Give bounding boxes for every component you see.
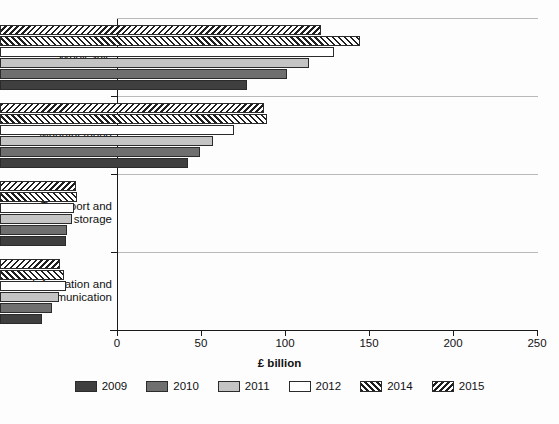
swatch-2010-icon [146,381,168,392]
bar-transport-2010 [0,225,67,235]
legend-item-2015[interactable]: 2015 [432,380,485,392]
bar-transport-2011 [0,214,72,224]
swatch-2009-icon [75,381,97,392]
legend-label: 2012 [316,380,342,392]
bar-wholesale-2009 [0,80,247,90]
bar-information-2015 [0,259,60,269]
swatch-2011-icon [218,381,240,392]
legend-label: 2014 [387,380,413,392]
x-axis-tick [117,330,118,336]
page-bleed-artifact [470,46,472,55]
bar-information-2011 [0,292,59,302]
bar-wholesale-2010 [0,69,287,79]
x-axis-tick-label: 250 [517,337,557,349]
x-axis-title: £ billion [0,357,559,369]
legend-label: 2009 [102,380,128,392]
bar-transport-2014 [0,192,77,202]
bar-manufacturing-2012 [0,125,234,135]
legend-label: 2010 [173,380,199,392]
bar-transport-2009 [0,236,66,246]
x-axis-line [110,330,538,331]
chart-legend: 200920102011201220142015 [0,380,559,392]
bar-wholesale-2014 [0,36,360,46]
x-axis-tick-label: 0 [97,337,137,349]
bar-manufacturing-2014 [0,114,267,124]
bar-wholesale-2012 [0,47,334,57]
bar-manufacturing-2011 [0,136,213,146]
bar-transport-2012 [0,203,74,213]
bar-group [0,18,420,96]
x-axis-tick [537,330,538,336]
bar-group [0,252,420,330]
x-axis-tick [201,330,202,336]
x-axis-tick-label: 200 [433,337,473,349]
x-axis-tick [285,330,286,336]
x-axis-tick [453,330,454,336]
bar-information-2014 [0,270,64,280]
swatch-2012-icon [289,381,311,392]
legend-item-2014[interactable]: 2014 [360,380,413,392]
bar-information-2012 [0,281,66,291]
bar-chart: WholesaleManufacturingTransport and stor… [0,0,559,424]
bar-group [0,96,420,174]
bar-group [0,174,420,252]
bar-wholesale-2015 [0,25,321,35]
x-axis-tick-label: 50 [181,337,221,349]
bar-transport-2015 [0,181,76,191]
swatch-2014-icon [360,381,382,392]
bar-wholesale-2011 [0,58,309,68]
bar-manufacturing-2010 [0,147,200,157]
legend-item-2010[interactable]: 2010 [146,380,199,392]
legend-item-2012[interactable]: 2012 [289,380,342,392]
x-axis-tick-label: 150 [349,337,389,349]
bar-manufacturing-2015 [0,103,264,113]
legend-item-2009[interactable]: 2009 [75,380,128,392]
swatch-2015-icon [432,381,454,392]
x-axis-tick-label: 100 [265,337,305,349]
legend-label: 2015 [459,380,485,392]
legend-label: 2011 [245,380,270,392]
bar-manufacturing-2009 [0,158,188,168]
legend-item-2011[interactable]: 2011 [218,380,270,392]
x-axis-tick [369,330,370,336]
bar-information-2009 [0,314,42,324]
bar-information-2010 [0,303,52,313]
